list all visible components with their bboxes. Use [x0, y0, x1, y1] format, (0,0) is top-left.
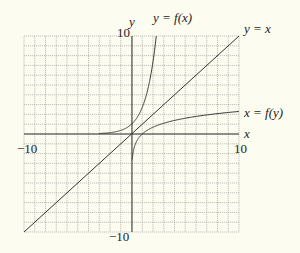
curve-label-fx: y = f(x) — [151, 10, 192, 25]
tick-label-x-min: −10 — [17, 141, 37, 156]
tick-label-x-max: 10 — [234, 141, 247, 156]
curve-label-identity: y = x — [242, 21, 271, 36]
curve-label-inverse: x = f(y) — [243, 105, 283, 120]
inverse-function-chart: y x y = f(x) y = x x = f(y) −10 10 10 −1… — [0, 0, 300, 253]
tick-label-y-min: −10 — [109, 229, 129, 244]
tick-label-y-max: 10 — [117, 25, 130, 40]
x-axis-label: x — [243, 126, 250, 141]
